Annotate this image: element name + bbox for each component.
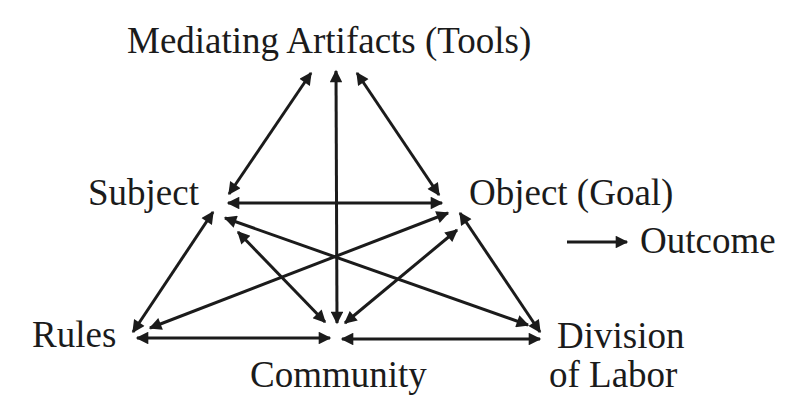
- edge-tools-object: [357, 73, 439, 195]
- node-tools-label: Mediating Artifacts (Tools): [127, 22, 531, 59]
- edge-object-rules: [150, 213, 448, 328]
- edge-tools-subject: [229, 73, 311, 194]
- node-subject-label: Subject: [88, 174, 199, 211]
- edge-tools-community: [336, 71, 337, 323]
- node-object-label: Object (Goal): [469, 174, 673, 211]
- edge-object-community: [345, 230, 457, 323]
- node-rules-label: Rules: [32, 316, 116, 353]
- node-community-label: Community: [250, 356, 427, 393]
- edge-subject-division: [225, 218, 528, 325]
- edge-subject-rules: [133, 212, 213, 332]
- node-outcome-label: Outcome: [640, 222, 776, 259]
- node-division-label-line1: Division: [557, 317, 684, 354]
- node-division-label-line2: of Labor: [549, 356, 677, 393]
- activity-system-diagram: Mediating Artifacts (Tools) Subject Obje…: [0, 0, 803, 420]
